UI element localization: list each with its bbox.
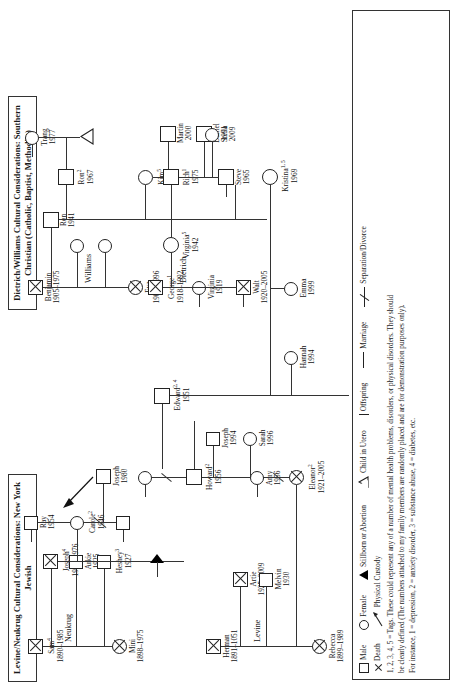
person-benjamin[interactable] [28,280,43,295]
legend-note-2: be clearly defined (The numbers attached… [398,17,407,673]
death-x-icon [29,281,42,294]
person-amy[interactable] [250,471,264,485]
marriage-line-ron2-trang [66,138,67,169]
family-label-williams: Williams [84,254,93,283]
person-walt-label: Walt1920–2005 [253,263,270,311]
person-rebecca-label: Rebecca1899–1989 [329,622,346,670]
vertical-bar-icon [359,414,369,415]
person-mini[interactable] [112,639,127,654]
custody-arrow-icon [62,472,96,510]
person-rebecca[interactable] [312,639,327,654]
person-williams-daughter-1[interactable] [70,239,84,253]
offspring-line-daniel [204,142,205,178]
person-heshey[interactable] [97,555,111,569]
person-walt[interactable] [236,280,251,295]
person-martin[interactable] [160,126,176,142]
death-x-icon [234,573,247,586]
person-howard-ex[interactable] [138,471,152,485]
person-emma[interactable] [284,282,298,296]
person-steve[interactable] [218,169,234,185]
filled-triangle-icon [359,570,368,580]
person-joseph94[interactable] [206,432,220,446]
person-sam[interactable] [28,639,43,654]
stillborn-connector [157,562,158,577]
legend-label-stillborn: Stillborn or Abortion [359,505,369,567]
legend-note-3: For instance, 1 = depression, 2 = anxiet… [409,17,418,673]
sibline-williams-1 [51,228,52,288]
legend-row-2: Death Physical Custody [372,17,384,673]
legend-label-separation: Separation/Divorce [359,226,369,283]
person-howard[interactable] [186,469,202,485]
person-kristina[interactable] [262,169,278,185]
couple-line-howard-ex [152,477,186,478]
legend-note-1: 1, 2, 3, 4, 5 = Tags. These could repres… [387,17,396,673]
person-eva[interactable] [128,280,143,295]
couple-spine-ron2-trang [39,137,66,138]
person-joseph-sr[interactable] [43,554,58,569]
genogram-canvas: Levine/Neukrug Cultural Considerations: … [0,0,461,690]
person-virginia[interactable] [192,281,206,295]
offspring-line-joseph94 [213,446,214,478]
death-x-icon [44,555,57,568]
sibline-neukrug-1 [51,569,52,647]
legend-box: Male Female Stillborn or Abortion Child … [352,10,450,680]
person-herman[interactable] [206,639,221,654]
death-x-icon [129,281,142,294]
marriage-line-edward-kristina [270,185,271,396]
person-arkie[interactable] [69,555,83,569]
person-eleanor-label: Eleanor21921–2005 [306,454,326,500]
person-mini-label: Mini1898–1975 [129,623,146,669]
person-carole-spouse[interactable] [116,516,130,530]
person-steve-label: Steve1965 [235,160,252,194]
person-melvin[interactable] [259,573,273,587]
person-williams-daughter-2[interactable] [98,239,112,253]
sibline-ray [31,530,32,542]
square-icon [359,663,369,673]
sibline-ron-1 [66,185,67,220]
person-virginia5[interactable] [163,237,179,253]
person-edward[interactable] [154,388,170,404]
person-stella[interactable] [205,128,219,142]
offspring-line-hannah [291,365,292,396]
person-george[interactable] [148,280,163,295]
stub-amy [257,485,258,497]
child-in-utero-triangle [80,128,94,145]
person-rich[interactable] [163,169,179,185]
person-joseph-jr[interactable] [96,469,111,484]
person-martin-label: Martin2000 [177,114,194,152]
death-x-icon [207,640,220,653]
legend-label-offspring: Offspring [359,383,369,412]
couple-spine-dietrich [163,287,237,288]
person-hannah[interactable] [284,351,298,365]
person-artie[interactable] [233,572,248,587]
person-ron2[interactable] [58,169,74,185]
legend-label-utero: Child in Utero [359,430,369,473]
person-joseph-jr-label: Joseph1980 [113,458,130,494]
person-eleanor[interactable] [289,470,304,485]
slashed-line-icon [359,287,369,307]
title-christian: Dietrich/Williams Cultural Consideration… [8,96,37,310]
person-ron-label: Ron1941 [60,204,77,236]
title-christian-line1: Dietrich/Williams Cultural Consideration… [12,102,23,304]
sibline-levine-1 [240,587,241,647]
person-ray[interactable] [24,516,38,530]
x-icon [374,664,383,673]
sibline-levine-3 [296,485,297,647]
sibline-virginia5 [171,253,172,288]
utero-connector [66,137,80,138]
person-kim[interactable] [138,170,153,185]
person-melvin-label: Melvin1930 [275,560,292,598]
stub-howard-ex [145,485,146,497]
person-ron[interactable] [43,212,59,228]
person-virginia5-label: Virginia51942 [180,224,200,266]
person-sarah-label: Sarah1996 [259,421,276,455]
marriage-line-howard [194,421,195,469]
stub-carole-spouse [123,530,124,542]
arrow-icon [372,610,384,628]
sibline-ron-2 [145,185,146,220]
person-carole[interactable] [70,516,84,530]
legend-label-custody: Physical Custody [373,556,383,608]
person-sarah[interactable] [243,432,257,446]
death-x-icon [113,640,126,653]
person-trang[interactable] [25,131,39,145]
